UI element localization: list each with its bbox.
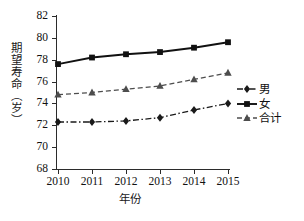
y-tick-mark [52, 103, 57, 104]
legend: 男女合计 [236, 82, 302, 126]
data-point-marker [191, 106, 197, 114]
x-tick-label: 2015 [211, 175, 245, 187]
y-tick-mark [52, 16, 57, 17]
legend-diamond-icon [236, 83, 258, 95]
x-tick-mark [228, 169, 229, 174]
y-tick-mark [52, 60, 57, 61]
data-point-marker [122, 85, 129, 92]
x-tick-mark [92, 169, 93, 174]
legend-label: 女 [259, 97, 270, 112]
data-point-marker [157, 49, 163, 55]
y-tick-mark [52, 169, 57, 170]
data-point-marker [225, 39, 231, 45]
data-point-marker [55, 61, 61, 67]
series-line [58, 73, 228, 95]
x-axis-tick-labels: 201020112012201320142015 [0, 175, 304, 191]
x-tick-label: 2011 [75, 175, 109, 187]
data-point-marker [123, 117, 129, 125]
data-point-marker [89, 118, 95, 126]
data-point-marker [89, 55, 95, 61]
x-tick-label: 2010 [41, 175, 75, 187]
legend-item[interactable]: 合计 [236, 111, 302, 126]
series-line [58, 103, 228, 122]
data-point-marker [157, 114, 163, 122]
series-2 [55, 39, 231, 67]
y-tick-mark [52, 125, 57, 126]
legend-label: 合计 [259, 111, 281, 126]
x-axis-title: 年份 [0, 193, 260, 206]
y-tick-mark [52, 82, 57, 83]
data-point-marker [244, 101, 250, 107]
x-tick-mark [58, 169, 59, 174]
legend-item[interactable]: 男 [236, 82, 302, 97]
data-point-marker [225, 99, 231, 107]
x-tick-label: 2012 [109, 175, 143, 187]
series-1 [55, 99, 231, 126]
data-point-marker [123, 51, 129, 57]
legend-triangle-icon [236, 112, 258, 124]
legend-square-icon [236, 98, 258, 110]
data-point-marker [191, 45, 197, 51]
x-tick-mark [160, 169, 161, 174]
x-tick-mark [194, 169, 195, 174]
data-point-marker [224, 69, 231, 76]
life-expectancy-line-chart: 期望寿命（岁） 6870727476788082 201020112012201… [0, 0, 304, 221]
series-line [58, 42, 228, 64]
legend-item[interactable]: 女 [236, 97, 302, 112]
x-tick-label: 2014 [177, 175, 211, 187]
series-3 [54, 69, 231, 98]
x-tick-label: 2013 [143, 175, 177, 187]
x-tick-mark [126, 169, 127, 174]
y-tick-mark [52, 38, 57, 39]
legend-label: 男 [259, 82, 270, 97]
y-tick-mark [52, 147, 57, 148]
data-point-marker [244, 85, 250, 93]
